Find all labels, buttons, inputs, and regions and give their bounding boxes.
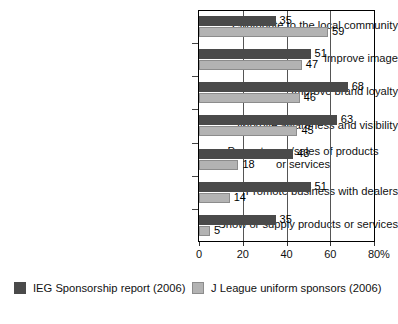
bar-series-jleague	[199, 93, 300, 103]
legend-item-ieg: IEG Sponsorship report (2006)	[14, 280, 185, 296]
bar-series-ieg	[199, 49, 311, 59]
bar-value-label: 51	[315, 181, 327, 192]
category-axis-tick	[192, 43, 198, 44]
plot-area: 35 59 51 47 68 46 63 45 43 18	[198, 10, 375, 242]
bar-value-label: 46	[304, 92, 316, 103]
bar-value-label: 35	[280, 214, 292, 225]
bar-series-jleague	[199, 27, 328, 37]
bar-group: 63 45	[199, 110, 374, 143]
bar-value-label: 14	[234, 192, 246, 203]
category-axis-tick	[192, 109, 198, 110]
bar-group: 51 14	[199, 177, 374, 210]
bar-series-ieg	[199, 82, 348, 92]
bar-value-label: 18	[242, 159, 254, 170]
bar-group: 43 18	[199, 144, 374, 177]
x-axis-tick	[199, 242, 200, 246]
legend-item-jleague: J League uniform sponsors (2006)	[192, 280, 381, 296]
x-axis-label: 60	[318, 248, 342, 260]
chart-legend: IEG Sponsorship report (2006) J League u…	[0, 280, 398, 300]
bar-group: 35 59	[199, 11, 374, 44]
category-axis-tick	[192, 143, 198, 144]
bar-series-ieg	[199, 182, 311, 192]
bar-series-ieg	[199, 16, 276, 26]
bar-group: 68 46	[199, 77, 374, 110]
bar-value-label: 68	[352, 81, 364, 92]
bar-series-jleague	[199, 60, 302, 70]
bar-group: 35 5	[199, 210, 374, 243]
legend-label: J League uniform sponsors (2006)	[211, 282, 381, 294]
bar-chart: Contribute to the local community Improv…	[0, 0, 398, 268]
bar-series-jleague	[199, 160, 238, 170]
bar-series-ieg	[199, 115, 337, 125]
category-axis-tick	[192, 176, 198, 177]
category-axis-tick	[192, 209, 198, 210]
bar-value-label: 47	[306, 59, 318, 70]
x-axis-tick	[374, 242, 375, 246]
x-axis-tick	[287, 242, 288, 246]
legend-swatch-icon	[14, 282, 26, 294]
bar-value-label: 45	[301, 125, 313, 136]
bar-value-label: 63	[341, 114, 353, 125]
x-axis-unit-label: %	[380, 248, 390, 260]
category-axis-tick	[192, 76, 198, 77]
bar-group: 51 47	[199, 44, 374, 77]
bar-value-label: 59	[332, 26, 344, 37]
legend-swatch-icon	[192, 282, 204, 294]
x-axis-tick	[243, 242, 244, 246]
bar-series-jleague	[199, 126, 297, 136]
x-axis-label: 40	[275, 248, 299, 260]
x-axis-tick	[330, 242, 331, 246]
bar-value-label: 43	[297, 148, 309, 159]
bar-series-jleague	[199, 226, 210, 236]
legend-label: IEG Sponsorship report (2006)	[33, 282, 185, 294]
bar-series-ieg	[199, 215, 276, 225]
x-axis-label: 0	[187, 248, 211, 260]
bar-series-jleague	[199, 193, 230, 203]
bar-value-label: 5	[214, 225, 220, 236]
bar-value-label: 35	[280, 15, 292, 26]
x-axis-label: 20	[231, 248, 255, 260]
